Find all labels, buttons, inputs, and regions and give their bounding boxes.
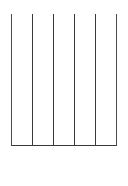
grid-cell[interactable] [74,66,95,92]
grid-cell[interactable] [32,14,53,40]
grid-cell[interactable] [74,145,95,186]
grid-cell[interactable] [74,40,95,66]
grid-cell[interactable] [95,40,116,66]
grid-cell[interactable] [95,66,116,92]
grid-cell[interactable] [53,118,74,145]
grid-cell[interactable] [53,14,74,40]
grid-cell[interactable] [11,118,32,145]
grid-cell[interactable] [95,92,116,118]
grid-cell[interactable] [32,40,53,66]
grid-cell[interactable] [95,145,116,186]
grid-cell[interactable] [32,145,53,186]
grid-cell[interactable] [32,92,53,118]
grid-cell[interactable] [11,145,32,186]
grid-cell[interactable] [53,40,74,66]
grid-cell[interactable] [95,14,116,40]
grid-cell[interactable] [53,145,74,186]
grid-cell[interactable] [53,92,74,118]
page-canvas [0,0,128,186]
grid-cell[interactable] [11,40,32,66]
grid-cell[interactable] [11,14,32,40]
grid-cell[interactable] [53,66,74,92]
grid-cell[interactable] [11,66,32,92]
grid-cell[interactable] [74,92,95,118]
grid-cell[interactable] [74,118,95,145]
grid-cell[interactable] [95,118,116,145]
grid-cell[interactable] [32,118,53,145]
grid-cell[interactable] [74,14,95,40]
grid-cell[interactable] [11,92,32,118]
grid-cell[interactable] [32,66,53,92]
